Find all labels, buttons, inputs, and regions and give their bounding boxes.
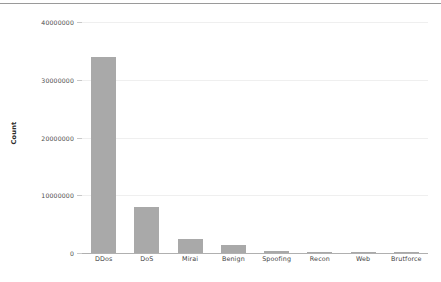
plot-area	[82, 22, 428, 253]
x-axis-tick-labels: DDosDoSMiraiBenignSpoofingReconWebBrutfo…	[82, 255, 428, 271]
x-axis-tick-label: Benign	[222, 255, 245, 263]
y-axis-tick-mark	[77, 253, 82, 254]
gridline	[82, 195, 428, 196]
bar	[307, 252, 332, 253]
bar	[351, 252, 376, 253]
y-axis-tick-labels: 010000000200000003000000040000000	[0, 22, 74, 253]
y-axis-tick-mark	[77, 138, 82, 139]
y-axis-tick-label: 30000000	[41, 76, 74, 83]
gridline	[82, 138, 428, 139]
bar	[91, 57, 116, 253]
chart-page: Count 010000000200000003000000040000000 …	[0, 0, 441, 282]
bar	[264, 251, 289, 253]
gridline	[82, 80, 428, 81]
x-axis-tick-label: DDos	[95, 255, 112, 263]
bar	[394, 252, 419, 253]
x-axis-tick-label: Web	[356, 255, 370, 263]
y-axis-tick-mark	[77, 195, 82, 196]
x-axis-tick-label: Brutforce	[391, 255, 422, 263]
top-divider	[0, 3, 441, 4]
y-axis-tick-label: 10000000	[41, 192, 74, 199]
y-axis-tick-mark	[77, 22, 82, 23]
gridline	[82, 22, 428, 23]
x-axis-tick-label: Spoofing	[262, 255, 291, 263]
bar	[221, 245, 246, 253]
y-axis-tick-label: 20000000	[41, 134, 74, 141]
x-axis-tick-label: Mirai	[182, 255, 198, 263]
y-axis-tick-mark	[77, 80, 82, 81]
x-axis-line	[77, 253, 428, 254]
y-axis-tick-label: 0	[70, 250, 74, 257]
x-axis-tick-label: DoS	[140, 255, 153, 263]
x-axis-tick-label: Recon	[310, 255, 330, 263]
y-axis-tick-label: 40000000	[41, 19, 74, 26]
bar	[134, 207, 159, 253]
bar	[178, 239, 203, 253]
